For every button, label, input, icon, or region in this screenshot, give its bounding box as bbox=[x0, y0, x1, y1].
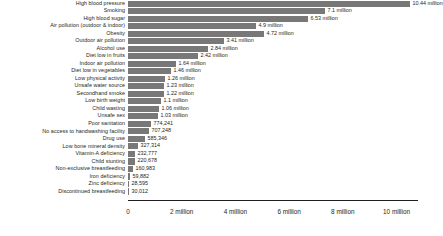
bar-row: Low physical activity1.26 million bbox=[0, 75, 430, 83]
value-label: 1.06 million bbox=[162, 106, 189, 111]
bar-container: 232,777 bbox=[128, 151, 135, 157]
bar bbox=[128, 23, 256, 29]
category-label: Child wasting bbox=[92, 106, 125, 111]
bar-container: 327,314 bbox=[128, 143, 138, 149]
category-label: Smoking bbox=[104, 9, 125, 14]
value-label: 1.64 million bbox=[179, 61, 206, 66]
bar bbox=[128, 61, 176, 67]
bar bbox=[128, 91, 164, 97]
bar-container: 1.26 million bbox=[128, 76, 165, 82]
x-axis-line bbox=[128, 200, 418, 201]
value-label: 28,595 bbox=[132, 181, 149, 186]
bar-container: 2.42 million bbox=[128, 53, 198, 59]
bar bbox=[128, 38, 224, 44]
value-label: 1.22 million bbox=[167, 91, 194, 96]
category-label: Poor sanitation bbox=[88, 121, 125, 126]
bar-row: Drug use585,346 bbox=[0, 135, 430, 143]
bar-container: 1.03 million bbox=[128, 113, 158, 119]
value-label: 59,882 bbox=[133, 174, 150, 179]
bar bbox=[128, 181, 129, 187]
bar-row: Low bone mineral density327,314 bbox=[0, 143, 430, 151]
bar bbox=[128, 113, 158, 119]
x-axis-tick-label: 2 million bbox=[170, 209, 193, 215]
value-label: 3.41 million bbox=[227, 39, 254, 44]
category-label: High blood sugar bbox=[83, 16, 125, 21]
value-label: 4.9 million bbox=[259, 23, 283, 28]
bar-container: 4.72 million bbox=[128, 31, 264, 37]
value-label: 1.23 million bbox=[167, 84, 194, 89]
bar-row: Vitamin-A deficiency232,777 bbox=[0, 150, 430, 158]
category-label: Low bone mineral density bbox=[63, 144, 125, 149]
bar-row: Unsafe sex1.03 million bbox=[0, 113, 430, 121]
category-label: Diet low in fruits bbox=[86, 54, 125, 59]
value-label: 585,346 bbox=[148, 136, 168, 141]
value-label: 4.72 million bbox=[267, 31, 294, 36]
value-label: 1.46 million bbox=[174, 69, 201, 74]
bar-container: 160,983 bbox=[128, 166, 133, 172]
category-label: Secondhand smoke bbox=[76, 91, 125, 96]
category-label: Outdoor air pollution bbox=[75, 39, 125, 44]
category-label: No access to handwashing facility bbox=[42, 129, 125, 134]
value-label: 1.1 million bbox=[164, 99, 188, 104]
bar-row: Secondhand smoke1.22 million bbox=[0, 90, 430, 98]
value-label: 327,314 bbox=[141, 144, 161, 149]
bar bbox=[128, 143, 138, 149]
category-label: Unsafe sex bbox=[97, 114, 125, 119]
category-label: Vitamin-A deficiency bbox=[75, 151, 125, 156]
bar-container: 1.23 million bbox=[128, 83, 164, 89]
value-label: 707,248 bbox=[152, 129, 172, 134]
bar-row: Non-exclusive breastfeeding160,983 bbox=[0, 165, 430, 173]
bar-container: 707,248 bbox=[128, 128, 149, 134]
category-label: Alcohol use bbox=[97, 46, 125, 51]
bar-container: 1.46 million bbox=[128, 68, 171, 74]
bar-row: Child wasting1.06 million bbox=[0, 105, 430, 113]
bar-container: 7.1 million bbox=[128, 8, 325, 14]
bar-row: Unsafe water source1.23 million bbox=[0, 83, 430, 91]
bar bbox=[128, 16, 308, 22]
value-label: 10.44 million bbox=[413, 1, 443, 6]
value-label: 232,777 bbox=[138, 151, 158, 156]
bar bbox=[128, 136, 145, 142]
category-label: Low birth weight bbox=[85, 99, 125, 104]
bar bbox=[128, 46, 208, 52]
bar-row: Obesity4.72 million bbox=[0, 30, 430, 38]
bar-row: Poor sanitation774,241 bbox=[0, 120, 430, 128]
bar bbox=[128, 158, 135, 164]
value-label: 7.1 million bbox=[328, 8, 352, 13]
bar-container: 4.9 million bbox=[128, 23, 256, 29]
bar-row: Iron deficiency59,882 bbox=[0, 173, 430, 181]
bar-container: 2.84 million bbox=[128, 46, 208, 52]
plot-area: High blood pressure10.44 millionSmoking7… bbox=[0, 0, 430, 200]
bar-row: No access to handwashing facility707,248 bbox=[0, 128, 430, 136]
bar-row: Zinc deficiency28,595 bbox=[0, 180, 430, 188]
bar bbox=[128, 31, 264, 37]
bar-row: High blood pressure10.44 million bbox=[0, 0, 430, 8]
bar-container: 10.44 million bbox=[128, 1, 410, 7]
x-axis-tick-label: 4 million bbox=[224, 209, 247, 215]
value-label: 220,678 bbox=[138, 159, 158, 164]
category-label: Non-exclusive breastfeeding bbox=[56, 166, 125, 171]
bar-row: Air pollution (outdoor & indoor)4.9 mill… bbox=[0, 23, 430, 31]
bar-container: 1.06 million bbox=[128, 106, 159, 112]
bar-row: Smoking7.1 million bbox=[0, 8, 430, 16]
bar bbox=[128, 106, 159, 112]
bar bbox=[128, 121, 151, 127]
category-label: Discontinued breastfeeding bbox=[58, 189, 125, 194]
bar bbox=[128, 151, 135, 157]
bar bbox=[128, 76, 165, 82]
bar bbox=[128, 98, 161, 104]
bar-container: 6.53 million bbox=[128, 16, 308, 22]
value-label: 6.53 million bbox=[311, 16, 338, 21]
bar-container: 1.22 million bbox=[128, 91, 164, 97]
category-label: Iron deficiency bbox=[89, 174, 125, 179]
bar-row: High blood sugar6.53 million bbox=[0, 15, 430, 23]
bar bbox=[128, 53, 198, 59]
bar-container: 220,678 bbox=[128, 158, 135, 164]
category-label: Zinc deficiency bbox=[89, 181, 125, 186]
bar bbox=[128, 128, 149, 134]
category-label: Air pollution (outdoor & indoor) bbox=[50, 24, 125, 29]
x-axis-tick-label: 8 million bbox=[331, 209, 354, 215]
bar bbox=[128, 188, 129, 194]
bar-row: Indoor air pollution1.64 million bbox=[0, 60, 430, 68]
